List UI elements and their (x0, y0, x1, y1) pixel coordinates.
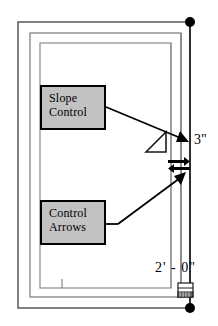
dimension-label-2ft-0in[interactable]: 2' - 0" (155, 260, 196, 275)
slope-control-leader-arrow (106, 107, 189, 142)
callout-slope-control-line2: Control (49, 106, 104, 120)
drawing-canvas: Slope Control Control Arrows 3" 2' - 0" (0, 0, 218, 326)
callout-box-slope-control[interactable]: Slope Control (40, 85, 106, 130)
endpoint-grip-dot-bottom-icon[interactable] (185, 303, 195, 313)
callout-slope-control-line1: Slope (49, 92, 104, 106)
callout-box-control-arrows[interactable]: Control Arrows (40, 200, 106, 245)
control-arrows-leader-arrow (106, 172, 186, 224)
dimension-label-3in[interactable]: 3" (194, 132, 207, 147)
hatched-detail-tag-icon[interactable] (178, 283, 193, 297)
middle-boundary-rectangle (30, 33, 181, 297)
slope-angle-symbol-icon[interactable] (146, 132, 166, 152)
drawing-vector-layer (0, 0, 218, 326)
endpoint-grip-dot-top-icon[interactable] (185, 17, 195, 27)
callout-control-arrows-line2: Arrows (49, 221, 104, 235)
inner-boundary-rectangle (40, 43, 171, 288)
callout-control-arrows-line1: Control (49, 207, 104, 221)
